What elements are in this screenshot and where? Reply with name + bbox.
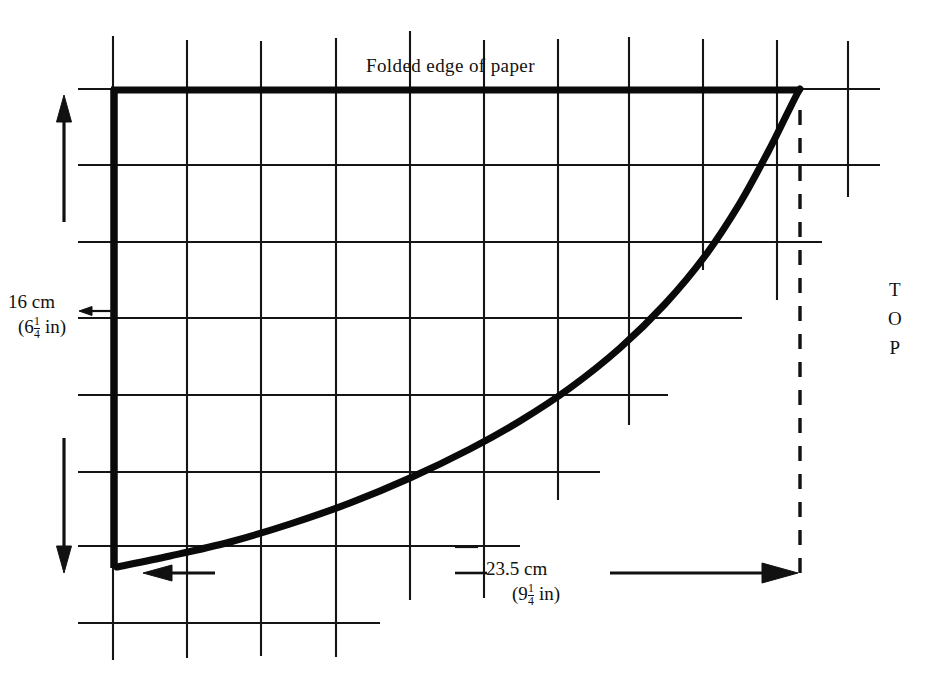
height-imperial-fraction: 14 bbox=[34, 316, 40, 341]
orientation-letter-p: P bbox=[888, 334, 902, 363]
orientation-label: T O P bbox=[888, 276, 902, 363]
grid-layer bbox=[78, 31, 880, 660]
height-arrow-up-head bbox=[57, 95, 72, 122]
height-dimension-label: 16 cm (614 in) bbox=[8, 292, 66, 340]
fraction-denominator: 4 bbox=[528, 595, 534, 608]
orientation-letter-o: O bbox=[888, 305, 902, 334]
orientation-letter-t: T bbox=[888, 276, 902, 305]
width-imperial-fraction: 14 bbox=[528, 583, 534, 608]
width-arrow-right-head bbox=[762, 563, 798, 583]
height-dimension-metric: 16 cm bbox=[8, 291, 55, 312]
pattern-outline bbox=[111, 88, 801, 568]
fraction-numerator: 1 bbox=[34, 316, 40, 328]
grid-verticals bbox=[113, 31, 848, 660]
diagram-canvas: Folded edge of paper T O P 16 cm (614 in… bbox=[0, 0, 937, 675]
width-dimension-arrows bbox=[143, 547, 798, 583]
height-dimension-leader-arrowhead bbox=[79, 307, 92, 316]
width-dimension-imperial: (914 in) bbox=[486, 582, 560, 607]
width-dimension-metric: 23.5 cm bbox=[486, 558, 547, 579]
height-arrow-down-head bbox=[57, 546, 72, 573]
width-dimension-label: 23.5 cm (914 in) bbox=[486, 559, 560, 607]
curved-cut-line bbox=[117, 89, 800, 567]
height-imperial-unit: in) bbox=[40, 316, 66, 337]
folded-edge-label: Folded edge of paper bbox=[366, 56, 535, 75]
fraction-denominator: 4 bbox=[34, 328, 40, 341]
height-imperial-whole: 6 bbox=[24, 316, 34, 337]
fraction-numerator: 1 bbox=[528, 583, 534, 595]
width-imperial-whole: 9 bbox=[518, 583, 528, 604]
width-imperial-unit: in) bbox=[534, 583, 560, 604]
width-arrow-left-head bbox=[143, 565, 172, 581]
height-dimension-imperial: (614 in) bbox=[8, 315, 66, 340]
diagram-vector-layer bbox=[0, 0, 937, 675]
